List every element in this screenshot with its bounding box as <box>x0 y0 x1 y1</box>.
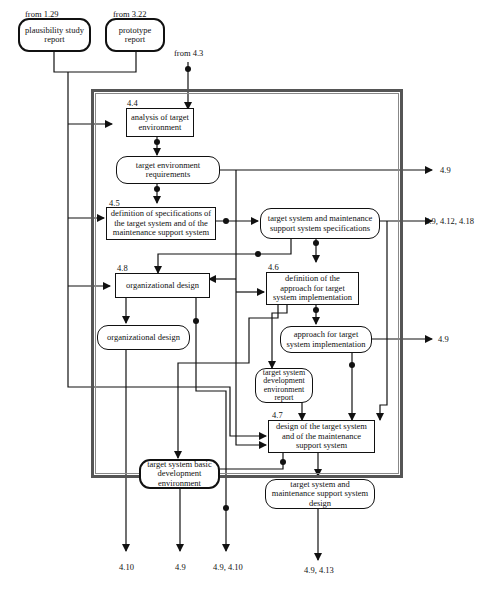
data-target-system-design[interactable]: target system and maintenance support sy… <box>265 479 375 509</box>
input-plausibility-study-report[interactable]: plausibility study report <box>18 18 91 52</box>
process-id-4-4: 4.4 <box>127 98 138 108</box>
data-organizational-design[interactable]: organizational design <box>97 325 190 350</box>
data-approach-for-target-system-implementation[interactable]: approach for target system implementatio… <box>280 326 372 353</box>
output-label-atsi: 4.9 <box>438 334 449 344</box>
data-target-system-development-environment-report[interactable]: target system development environment re… <box>255 368 313 403</box>
output-label-ter: 4.9 <box>440 165 451 175</box>
data-target-environment-requirements[interactable]: target environment requirements <box>116 156 220 184</box>
process-id-4-7: 4.7 <box>272 410 283 420</box>
output-label-od: 4.10 <box>119 562 134 572</box>
process-analysis-of-target-environment[interactable]: analysis of target environment <box>126 108 194 137</box>
output-label-org-design-process: 4.9, 4.10 <box>213 562 243 572</box>
process-design-of-target-system[interactable]: design of the target system and of the m… <box>268 420 375 453</box>
source-label-from-4-3: from 4.3 <box>174 48 203 58</box>
process-definition-of-approach[interactable]: definition of the approach for target sy… <box>266 272 359 305</box>
process-definition-of-specifications[interactable]: definition of specifications of the targ… <box>106 207 216 240</box>
process-organizational-design[interactable]: organizational design <box>115 273 210 298</box>
output-label-tsms: 4.9, 4.12, 4.18 <box>425 216 474 226</box>
data-target-system-specifications[interactable]: target system and maintenance support sy… <box>260 208 380 239</box>
output-label-tsbde: 4.9 <box>175 562 186 572</box>
data-target-system-basic-development-environment[interactable]: target system basic development environm… <box>139 459 220 489</box>
input-prototype-report[interactable]: prototype report <box>105 18 165 52</box>
process-id-4-8: 4.8 <box>117 263 128 273</box>
output-label-tsmsd: 4.9, 4.13 <box>304 565 334 575</box>
process-id-4-6: 4.6 <box>268 262 279 272</box>
